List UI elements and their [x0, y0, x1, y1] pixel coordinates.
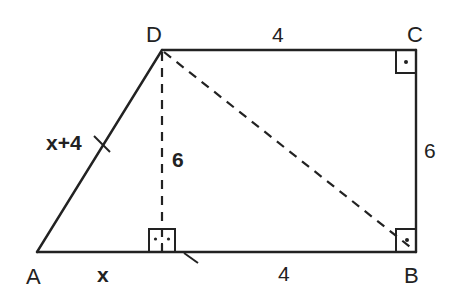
diagonal-db: [164, 52, 414, 250]
length-label-dc: 4: [272, 23, 284, 46]
vertex-label-c: C: [407, 22, 423, 47]
right-angle-marker-c: [396, 50, 416, 73]
length-label-dh: 6: [172, 148, 184, 171]
dashed-lines: [162, 52, 414, 252]
length-label-ah: x: [97, 263, 109, 286]
trapezoid-outline: [37, 50, 416, 252]
vertex-label-d: D: [146, 22, 162, 47]
vertex-label-a: A: [26, 264, 41, 289]
tick-mark-hb: [184, 253, 198, 263]
right-angle-marker-b: [396, 229, 416, 252]
length-label-ad: x+4: [46, 131, 82, 154]
trapezoid-diagram: A B C D x+4 6 x 4 4 6: [0, 0, 458, 300]
length-label-cb: 6: [424, 139, 436, 162]
length-label-hb: 4: [278, 262, 290, 285]
vertex-label-b: B: [404, 263, 419, 288]
